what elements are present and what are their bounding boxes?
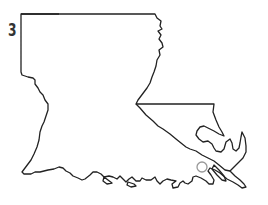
- state-outline: [21, 14, 246, 188]
- louisiana-map: [0, 0, 268, 205]
- location-marker: [197, 162, 207, 172]
